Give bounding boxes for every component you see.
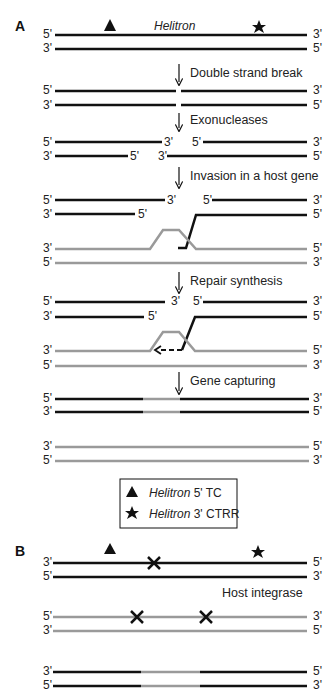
strand-end: 3' [43,555,52,569]
strand-end: 5' [313,343,322,357]
panel-label-a: A [15,18,25,34]
strand-end: 5' [43,358,52,372]
strand-end: 5' [148,309,157,323]
legend-item-3-ctrr: Helitron 3' CTRR [149,507,240,521]
strand-end: 5' [313,98,322,112]
host-strand [55,230,307,249]
strand-end: 3' [158,149,167,163]
step-label: Repair synthesis [190,274,282,288]
step-label: Double strand break [190,66,303,80]
strand-end: 3' [313,294,322,308]
legend: Helitron 5' TC Helitron 3' CTRR [120,479,240,528]
strand-end: 3' [43,149,52,163]
strand-end: 5' [43,294,52,308]
strand-end: 3' [43,207,52,221]
strand-end: 3' [313,83,322,97]
strand-end: 3' [313,135,322,149]
host-strand [55,332,307,351]
strand-end: 5' [138,207,147,221]
strand-end: 5' [192,135,201,149]
strand-end: 3' [171,294,180,308]
strand-end: 3' [164,135,173,149]
strand-end: 3' [43,623,52,637]
step-label-host-integrase: Host integrase [222,586,303,600]
strand-end: 5' [313,555,322,569]
strand-end: 3' [43,309,52,323]
strand-end: 5' [43,255,52,269]
step-label: Exonucleases [190,113,268,127]
strand-end: 3' [43,98,52,112]
strand-end: 3' [313,391,322,405]
panel-label-b: B [15,543,25,559]
strand-end: 3' [43,343,52,357]
strand-end: 3' [313,569,322,583]
star-icon [252,20,266,33]
strand-end: 3' [313,193,322,207]
helitron-diagram: A Helitron 5' 3' 3' 5' Double strand bre… [0,0,335,699]
invading-strand [178,215,307,248]
star-icon [251,545,265,558]
strand-end: 5' [313,207,322,221]
strand-end: 5' [313,439,322,453]
strand-end: 5' [313,664,322,678]
strand-end: 3' [167,193,176,207]
strand-end: 5' [43,391,52,405]
strand-end: 5' [43,678,52,692]
strand-end: 5' [313,149,322,163]
legend-item-5-tc: Helitron 5' TC [149,486,222,500]
strand-end: 3' [313,27,322,41]
step-label: Gene capturing [190,374,276,388]
strand-end: 3' [43,404,52,418]
strand-end: 5' [43,453,52,467]
strand-end: 5' [313,623,322,637]
strand-end: 3' [43,439,52,453]
strand-end: 3' [43,241,52,255]
strand-end: 5' [193,294,202,308]
strand-end: 5' [43,609,52,623]
strand-end: 3' [43,41,52,55]
strand-end: 5' [313,241,322,255]
strand-end: 5' [313,41,322,55]
strand-end: 3' [313,453,322,467]
triangle-icon [104,19,116,31]
strand-end: 3' [313,255,322,269]
helitron-title: Helitron [154,19,196,33]
strand-end: 5' [203,193,212,207]
strand-end: 3' [313,609,322,623]
strand-end: 5' [43,83,52,97]
strand-end: 5' [43,569,52,583]
strand-end: 5' [43,27,52,41]
strand-end: 5' [43,135,52,149]
strand-end: 3' [313,358,322,372]
triangle-icon [104,543,116,554]
strand-end: 5' [43,193,52,207]
strand-end: 5' [130,149,139,163]
strand-end: 3' [43,664,52,678]
step-label: Invasion in a host gene [190,169,319,183]
invading-strand [182,317,307,350]
strand-end: 3' [313,678,322,692]
strand-end: 5' [313,309,322,323]
strand-end: 5' [313,404,322,418]
